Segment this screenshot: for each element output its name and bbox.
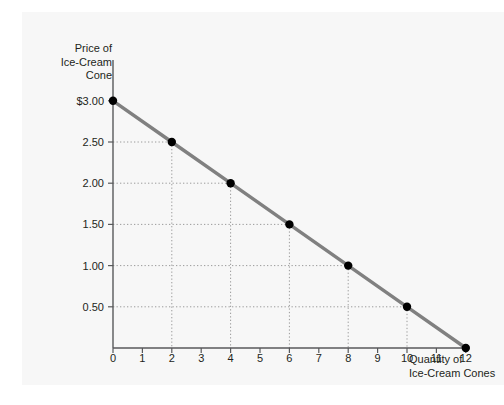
x-tick-label: 12 xyxy=(454,352,478,364)
x-tick-label: 0 xyxy=(101,352,125,364)
x-tick-label: 1 xyxy=(130,352,154,364)
x-tick-label: 4 xyxy=(219,352,243,364)
x-tick-label: 5 xyxy=(248,352,272,364)
x-tick-label: 8 xyxy=(336,352,360,364)
x-tick-label: 10 xyxy=(395,352,419,364)
gridlines xyxy=(113,142,407,348)
x-tick-label: 9 xyxy=(366,352,390,364)
y-tick-label: 2.00 xyxy=(44,177,104,189)
y-axis-title: Price of Ice-Cream Cone xyxy=(2,42,112,83)
figure-root: Price of Ice-Cream Cone Quantity of Ice-… xyxy=(0,0,504,405)
y-tick-label: 1.50 xyxy=(44,218,104,230)
x-tick-label: 7 xyxy=(307,352,331,364)
y-tick-label: 1.00 xyxy=(44,260,104,272)
x-tick-label: 3 xyxy=(189,352,213,364)
y-tick-label: $3.00 xyxy=(44,95,104,107)
x-tick-label: 6 xyxy=(277,352,301,364)
y-tick-label: 2.50 xyxy=(44,136,104,148)
x-tick-label: 2 xyxy=(160,352,184,364)
x-tick-label: 11 xyxy=(424,352,448,364)
y-tick-label: 0.50 xyxy=(44,301,104,313)
axis-lines xyxy=(113,60,466,348)
